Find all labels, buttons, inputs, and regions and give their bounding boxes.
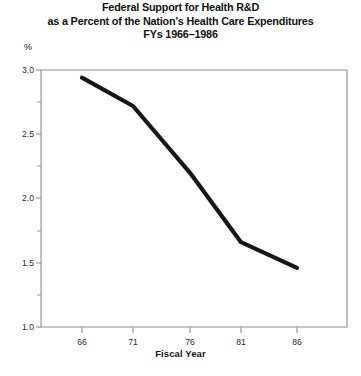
- x-axis-ticks: [82, 327, 297, 333]
- x-tick-label: 71: [128, 337, 138, 347]
- y-axis-tick-labels: 3.0 2.5 2.0 1.5 1.0: [22, 65, 34, 332]
- y-tick-label: 1.5: [22, 258, 34, 268]
- x-tick-label: 86: [292, 337, 302, 347]
- chart-canvas: 3.0 2.5 2.0 1.5 1.0 66 71 76 81 86: [0, 0, 361, 376]
- data-series-line: [82, 78, 297, 268]
- plot-frame: [41, 70, 347, 327]
- x-tick-label: 76: [185, 337, 195, 347]
- x-tick-label: 81: [236, 337, 246, 347]
- x-axis-title: Fiscal Year: [0, 348, 361, 359]
- y-tick-label: 1.0: [22, 322, 34, 332]
- x-axis-tick-labels: 66 71 76 81 86: [77, 337, 302, 347]
- y-tick-label: 2.0: [22, 193, 34, 203]
- chart-plot-area: 3.0 2.5 2.0 1.5 1.0 66 71 76 81 86: [0, 0, 361, 376]
- y-tick-label: 2.5: [22, 129, 34, 139]
- y-axis-major-ticks: [36, 70, 41, 327]
- x-tick-label: 66: [77, 337, 87, 347]
- y-tick-label: 3.0: [22, 65, 34, 75]
